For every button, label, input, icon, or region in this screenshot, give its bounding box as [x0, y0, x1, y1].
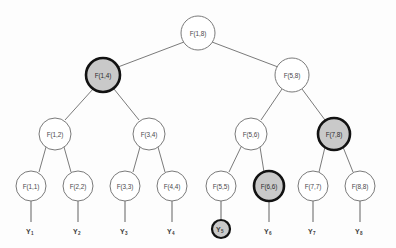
tree-node-f22: F(2,2)	[63, 171, 93, 201]
node-label: F(3,3)	[117, 183, 133, 191]
tree-edge	[343, 147, 353, 172]
tree-canvas: F(1,8)F(1,4)F(5,8)F(1,2)F(3,4)F(5,6)F(7,…	[0, 0, 396, 248]
observation-label: Y2	[73, 228, 81, 236]
tree-edge	[260, 147, 264, 172]
tree-edge	[118, 42, 184, 67]
tree-node-f33: F(3,3)	[110, 171, 140, 201]
observation-label: Y1	[26, 228, 34, 236]
node-label: F(3,4)	[141, 131, 157, 139]
observation-y2: Y2	[73, 228, 81, 236]
node-label: F(1,2)	[47, 131, 63, 139]
node-label: F(7,8)	[326, 131, 342, 139]
tree-edge	[133, 147, 140, 172]
tree-node-f44: F(4,4)	[157, 171, 187, 201]
node-label: F(6,6)	[261, 183, 277, 191]
tree-node-f55: F(5,5)	[206, 171, 236, 201]
tree-node-f14: F(1,4)	[86, 58, 120, 92]
tree-edge	[319, 147, 325, 172]
node-label: F(4,4)	[164, 183, 180, 191]
observation-y6: Y6	[264, 228, 272, 236]
tree-edge	[158, 147, 165, 172]
stem-group	[31, 201, 360, 222]
observation-y5: Y5	[212, 220, 230, 238]
observation-y4: Y4	[167, 228, 175, 236]
tree-node-f58: F(5,8)	[275, 58, 309, 92]
observation-label: Y7	[308, 228, 316, 236]
node-label: F(5,6)	[243, 131, 259, 139]
node-label: F(7,7)	[305, 183, 321, 191]
node-label: F(1,4)	[95, 72, 111, 80]
observation-y8: Y8	[355, 228, 363, 236]
node-label: F(5,8)	[284, 72, 300, 80]
observation-label: Y3	[120, 228, 128, 236]
tree-edge	[65, 89, 93, 120]
tree-edge	[64, 147, 71, 172]
tree-node-f11: F(1,1)	[16, 171, 46, 201]
observation-label: Y4	[167, 228, 175, 236]
observation-y7: Y7	[308, 228, 316, 236]
node-label: F(5,5)	[213, 183, 229, 191]
tree-node-f18: F(1,8)	[181, 16, 215, 50]
tree-node-f66: F(6,6)	[254, 171, 284, 201]
node-label: F(1,1)	[23, 183, 39, 191]
tree-node-f12: F(1,2)	[39, 118, 71, 150]
tree-edge	[229, 147, 241, 172]
observation-y3: Y3	[120, 228, 128, 236]
node-label: F(2,2)	[70, 183, 86, 191]
tree-edge	[212, 42, 278, 67]
tree-node-f56: F(5,6)	[235, 118, 267, 150]
tree-edge	[39, 147, 46, 172]
tree-edge	[302, 89, 325, 120]
node-label: F(1,8)	[190, 30, 206, 38]
node-label: F(8,8)	[352, 183, 368, 191]
tree-node-f88: F(8,8)	[345, 171, 375, 201]
observation-label: Y6	[264, 228, 272, 236]
tree-node-f77: F(7,7)	[298, 171, 328, 201]
tree-node-f78: F(7,8)	[318, 118, 350, 150]
observation-group: Y1Y2Y3Y4Y5Y6Y7Y8	[26, 220, 363, 238]
tree-edge	[114, 89, 139, 120]
tree-diagram: F(1,8)F(1,4)F(5,8)F(1,2)F(3,4)F(5,6)F(7,…	[0, 0, 396, 248]
tree-edge	[261, 89, 282, 120]
node-group: F(1,8)F(1,4)F(5,8)F(1,2)F(3,4)F(5,6)F(7,…	[16, 16, 375, 201]
tree-node-f34: F(3,4)	[133, 118, 165, 150]
edge-group	[39, 42, 353, 172]
observation-y1: Y1	[26, 228, 34, 236]
observation-label: Y8	[355, 228, 363, 236]
